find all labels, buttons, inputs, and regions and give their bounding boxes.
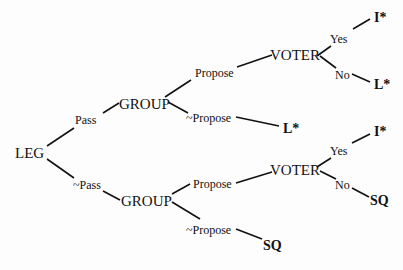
node-outcome-l-top: L*: [374, 77, 390, 92]
node-outcome-sq-right: SQ: [370, 193, 389, 208]
node-outcome-i-top: I*: [374, 10, 386, 25]
node-outcome-sq-bottom: SQ: [263, 238, 282, 253]
edge-yes-top-to-outcome-i-top: [353, 19, 370, 29]
node-no-top: No: [335, 68, 350, 82]
edge-voter-top-to-no-top: [320, 56, 336, 68]
edge-propose-top-to-voter-top: [237, 55, 272, 67]
edge-propose-bottom-to-voter-bottom: [236, 172, 272, 183]
node-voter-top: VOTER: [270, 47, 320, 63]
edge-yes-bottom-to-outcome-i-bottom: [352, 134, 370, 143]
edge-group-bottom-to-propose-bottom: [172, 184, 190, 194]
node-group-bottom: GROUP: [121, 193, 172, 209]
edge-no-bottom-to-outcome-sq-right: [352, 188, 369, 197]
node-not-propose-top: ~Propose: [186, 111, 231, 125]
edge-not-pass-to-group-bottom: [103, 191, 120, 200]
node-yes-top: Yes: [330, 32, 348, 46]
node-voter-bottom: VOTER: [270, 162, 320, 178]
game-tree-diagram: LEGPass~PassGROUPGROUPPropose~ProposeL*V…: [0, 0, 403, 270]
edge-pass-to-group-top: [103, 103, 119, 113]
node-no-bottom: No: [335, 178, 350, 192]
node-not-propose-bottom: ~Propose: [186, 223, 231, 237]
game-tree-svg: LEGPass~PassGROUPGROUPPropose~ProposeL*V…: [0, 0, 403, 270]
node-group-top: GROUP: [119, 96, 170, 112]
node-pass: Pass: [75, 113, 97, 127]
edge-leg-to-pass: [47, 128, 74, 146]
node-leg: LEG: [15, 145, 44, 161]
node-outcome-i-bottom: I*: [374, 124, 386, 139]
edge-leg-to-not-pass: [47, 159, 74, 178]
node-not-pass: ~Pass: [73, 178, 101, 192]
edge-group-top-to-not-propose-top: [168, 102, 188, 113]
edge-not-propose-bottom-to-outcome-sq-bottom: [236, 229, 262, 239]
node-propose-bottom: Propose: [193, 177, 232, 191]
edge-no-top-to-outcome-l-top: [352, 74, 370, 82]
node-outcome-l-mid: L*: [283, 121, 299, 136]
edge-group-top-to-propose-top: [165, 80, 191, 97]
edge-voter-bottom-to-no-bottom: [320, 171, 336, 179]
edge-not-propose-top-to-outcome-l-mid: [236, 117, 279, 126]
node-yes-bottom: Yes: [330, 144, 348, 158]
edge-group-bottom-to-not-propose-bottom: [172, 202, 200, 219]
node-propose-top: Propose: [195, 66, 234, 80]
